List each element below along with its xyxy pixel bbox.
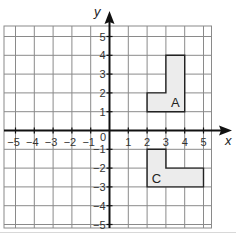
axes [4, 11, 232, 228]
grid-canvas: AC x y 0 −5−4−3−2−11234554321−1−2−3−4−5 [0, 0, 236, 234]
x-tick-label: −5 [7, 136, 20, 148]
shape-label-c: C [152, 171, 161, 186]
origin-label: 0 [100, 131, 106, 143]
y-tick-label: 2 [99, 87, 105, 99]
labels-layer: x y 0 −5−4−3−2−11234554321−1−2−3−4−5 [7, 4, 232, 231]
shapes-layer: AC [147, 55, 203, 187]
coordinate-grid-diagram: AC x y 0 −5−4−3−2−11234554321−1−2−3−4−5 [0, 0, 236, 234]
y-tick-label: −3 [93, 181, 106, 193]
y-tick-label: −4 [93, 200, 106, 212]
y-tick-label: 4 [99, 49, 105, 61]
y-tick-label: 5 [99, 31, 105, 43]
shape-label-a: A [171, 95, 180, 110]
y-tick-label: 1 [99, 106, 105, 118]
x-tick-label: 4 [182, 136, 188, 148]
y-tick-label: 3 [99, 68, 105, 80]
x-tick-label: −3 [45, 136, 58, 148]
y-tick-label: −1 [93, 143, 106, 155]
y-tick-label: −5 [93, 219, 106, 231]
x-tick-label: 5 [200, 136, 206, 148]
x-tick-label: 3 [163, 136, 169, 148]
x-axis-label: x [224, 133, 232, 148]
x-tick-label: 1 [125, 136, 131, 148]
x-tick-label: 2 [144, 136, 150, 148]
bottom-divider [0, 232, 236, 233]
x-tick-label: −2 [64, 136, 77, 148]
y-axis-label: y [93, 4, 102, 19]
x-tick-label: −4 [26, 136, 39, 148]
y-tick-label: −2 [93, 162, 106, 174]
